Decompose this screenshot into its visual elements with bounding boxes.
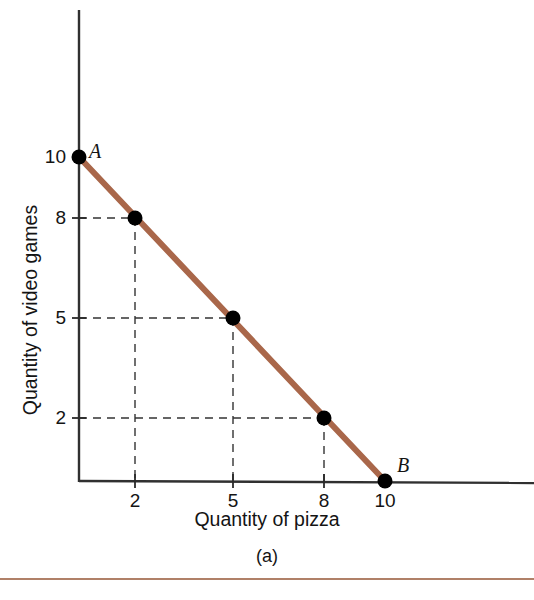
panel-caption: (a) <box>256 546 278 567</box>
figure-container: 10 8 5 2 2 5 8 10 Quantity of pizza Quan… <box>0 0 534 600</box>
guide-lines <box>79 218 324 481</box>
ytick-label-10: 10 <box>45 146 66 168</box>
ytick-label-2: 2 <box>55 407 66 429</box>
y-axis-title: Quantity of video games <box>19 205 42 415</box>
xtick-label-10: 10 <box>374 490 395 512</box>
point-label-a: A <box>89 140 101 163</box>
bottom-divider-rule <box>0 578 534 580</box>
point-label-b: B <box>397 454 409 477</box>
data-point-b <box>378 474 393 489</box>
data-point-2-8 <box>128 211 143 226</box>
axes <box>79 10 534 483</box>
data-point-8-2 <box>317 411 332 426</box>
data-point-5-5 <box>226 311 241 326</box>
xtick-label-2: 2 <box>130 490 141 512</box>
ytick-label-5: 5 <box>55 307 66 329</box>
ytick-label-8: 8 <box>55 207 66 229</box>
tick-marks <box>72 157 324 488</box>
x-axis-title: Quantity of pizza <box>194 508 339 531</box>
data-point-a <box>72 150 87 165</box>
x-axis-line <box>79 481 534 483</box>
